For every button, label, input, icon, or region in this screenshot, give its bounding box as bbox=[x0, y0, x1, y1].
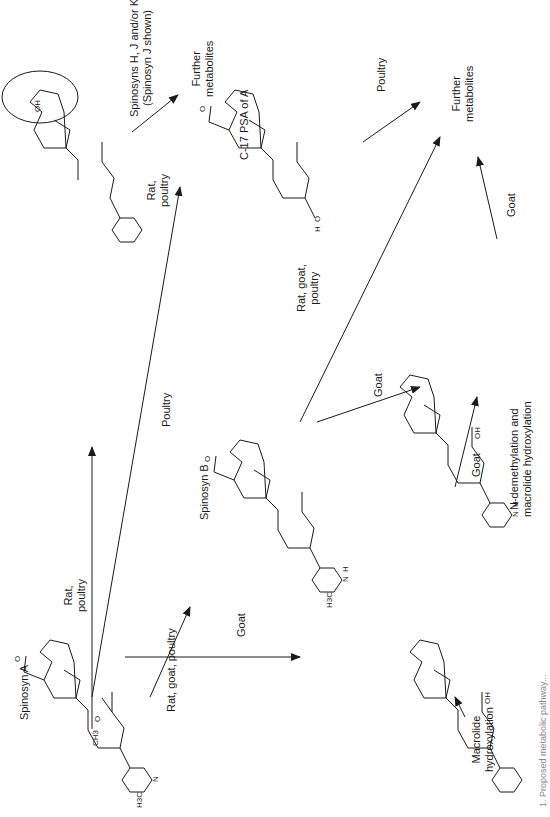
svg-text:O: O bbox=[313, 216, 322, 222]
transition-label-a-mh: Goat bbox=[235, 613, 248, 637]
t6-line2: poultry bbox=[308, 264, 321, 312]
label-nd-line2: macrolide hydroxylation bbox=[521, 401, 534, 517]
label-mh-line2: hydroxylation bbox=[483, 707, 496, 772]
svg-text:O: O bbox=[93, 716, 102, 722]
figure-caption: 1. Proposed metabolic pathway... bbox=[538, 675, 548, 807]
svg-text:O: O bbox=[198, 106, 207, 112]
t4-line2: poultry bbox=[158, 174, 171, 207]
svg-text:H3C: H3C bbox=[135, 792, 144, 808]
label-c17-psa: C-17 PSA of A bbox=[238, 90, 251, 160]
further-top-line2: metabolites bbox=[203, 41, 216, 97]
svg-text:OH: OH bbox=[473, 427, 482, 439]
transition-label-b-further: Rat, goat, poultry bbox=[295, 264, 321, 312]
svg-text:OH: OH bbox=[33, 100, 42, 112]
svg-text:OH: OH bbox=[483, 692, 492, 704]
label-spinosyn-b: Spinosyn B bbox=[198, 464, 211, 520]
transition-label-b-nd: Goat bbox=[372, 373, 385, 397]
t6-line1: Rat, goat, bbox=[295, 264, 308, 312]
svg-text:CH3: CH3 bbox=[91, 729, 100, 746]
arrow-nd-to-further bbox=[478, 157, 497, 239]
label-further-metabolites-top: Further metabolites bbox=[190, 41, 216, 97]
further-right-line1: Further bbox=[450, 66, 463, 122]
svg-text:N: N bbox=[341, 576, 350, 582]
t4-line1: Rat, bbox=[145, 174, 158, 207]
label-macrolide-hydroxylation: Macrolide hydroxylation bbox=[470, 707, 496, 772]
label-spinosyn-a: Spinosyn A bbox=[18, 665, 31, 720]
transition-label-mh-nd: Goat bbox=[470, 453, 483, 477]
svg-text:O: O bbox=[203, 456, 212, 462]
svg-text:O: O bbox=[13, 656, 22, 662]
molecule-c17-psa: H O O bbox=[195, 82, 349, 262]
label-mh-line1: Macrolide bbox=[470, 707, 483, 772]
t0-line2: poultry bbox=[75, 579, 88, 612]
label-spinosyn-hjk: Spinosyns H, J and/or K (Spinosyn J show… bbox=[128, 0, 154, 117]
arrow-a-to-c17 bbox=[92, 187, 180, 697]
molecule-spinosyn-hjk: OH bbox=[10, 72, 144, 262]
further-top-line1: Further bbox=[190, 41, 203, 97]
t0-line1: Rat, bbox=[62, 579, 75, 612]
arrow-c17-to-further bbox=[363, 102, 420, 142]
transition-label-c17-further: Poultry bbox=[375, 58, 388, 92]
transition-label-hjk-further: Rat, poultry bbox=[145, 174, 171, 207]
label-further-metabolites-right: Further metabolites bbox=[450, 66, 476, 122]
label-spinosyn-hjk-line2: (Spinosyn J shown) bbox=[141, 0, 154, 117]
transition-label-a-c17: Poultry bbox=[160, 393, 173, 427]
molecule-spinosyn-b: H3C N H O bbox=[200, 432, 354, 612]
label-spinosyn-hjk-line1: Spinosyns H, J and/or K bbox=[128, 0, 141, 117]
molecule-macrolide-hydroxylated: OH bbox=[380, 632, 534, 812]
molecule-spinosyn-a: H3C N O O CH3 bbox=[10, 632, 164, 812]
highlight-ellipse bbox=[2, 71, 78, 123]
transition-label-a-b: Rat, goat, poultry bbox=[165, 628, 178, 712]
svg-text:N: N bbox=[151, 776, 160, 782]
diagram-canvas: H3C N O O CH3 Spinosyn A H3C N H O Spino… bbox=[0, 0, 550, 817]
transition-label-a-hjk: Rat, poultry bbox=[62, 579, 88, 612]
transition-label-nd-further: Goat bbox=[505, 193, 518, 217]
svg-text:H: H bbox=[341, 566, 350, 572]
svg-text:H3C: H3C bbox=[325, 592, 334, 608]
further-right-line2: metabolites bbox=[463, 66, 476, 122]
molecule-n-demethylated: OH N H bbox=[370, 367, 524, 547]
label-nd-line1: N-demethylation and bbox=[508, 401, 521, 517]
label-n-demethylation: N-demethylation and macrolide hydroxylat… bbox=[508, 401, 534, 517]
svg-text:H: H bbox=[313, 226, 322, 232]
